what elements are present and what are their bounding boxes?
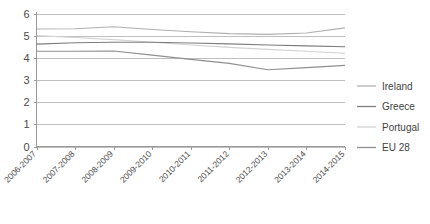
data-series — [37, 27, 346, 70]
x-tick-label: 2007-2008 — [41, 149, 77, 185]
x-tick-label: 2012-2013 — [233, 149, 269, 185]
y-tick-label: 5 — [23, 30, 29, 42]
legend-label-greece[interactable]: Greece — [382, 101, 415, 112]
x-tick-label: 2009-2010 — [118, 149, 154, 185]
x-tick-label: 2011-2012 — [195, 149, 231, 185]
y-tick-label: 3 — [23, 74, 29, 86]
series-line-ireland — [37, 27, 346, 35]
x-tick-labels: 2006-20072007-20082008-20092009-20102010… — [2, 149, 347, 185]
x-tick-label: 2006-2007 — [2, 149, 38, 185]
y-tick-label: 4 — [23, 52, 29, 64]
y-tick-label: 1 — [23, 118, 29, 130]
legend-label-ireland[interactable]: Ireland — [382, 81, 413, 92]
x-tick-label: 2010-2011 — [157, 149, 193, 185]
chart-legend: IrelandGreecePortugalEU 28 — [357, 81, 419, 154]
series-line-portugal — [37, 36, 346, 54]
y-tick-label: 2 — [23, 96, 29, 108]
legend-label-portugal[interactable]: Portugal — [382, 122, 419, 133]
y-axis — [34, 12, 37, 148]
gridlines — [37, 15, 346, 148]
line-chart: 0123456 2006-20072007-20082008-20092009-… — [0, 0, 430, 224]
y-tick-labels: 0123456 — [23, 8, 29, 153]
series-line-eu-28 — [37, 51, 346, 70]
chart-canvas: 0123456 2006-20072007-20082008-20092009-… — [0, 0, 430, 224]
legend-label-eu-28[interactable]: EU 28 — [382, 142, 410, 153]
x-tick-label: 2013-2014 — [272, 149, 308, 185]
y-tick-label: 6 — [23, 8, 29, 20]
x-tick-label: 2008-2009 — [79, 149, 115, 185]
x-tick-label: 2014-2015 — [311, 149, 347, 185]
